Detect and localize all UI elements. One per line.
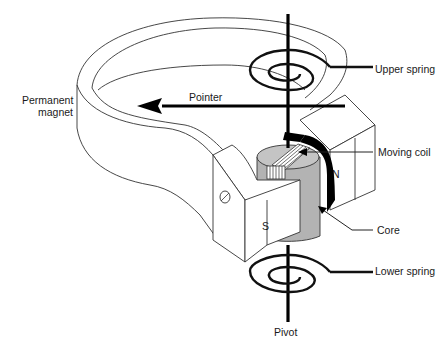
south-pole-label: S	[262, 220, 269, 232]
core-label: Core	[377, 224, 400, 236]
pointer	[137, 98, 345, 114]
lower-spring	[250, 255, 373, 292]
pointer-label: Pointer	[189, 91, 223, 103]
upper-spring-label: Upper spring	[375, 63, 435, 75]
moving-coil-meter-diagram: N S	[0, 0, 448, 353]
pivot-label: Pivot	[274, 326, 297, 338]
permanent-magnet-label-line1: Permanent	[22, 94, 73, 106]
permanent-magnet-label-line2: magnet	[38, 106, 73, 118]
pointer-arrowhead-icon	[137, 98, 162, 114]
lower-spring-label: Lower spring	[375, 265, 435, 277]
upper-spring	[250, 50, 373, 90]
moving-coil-label: Moving coil	[378, 146, 431, 158]
core-leader	[323, 210, 373, 230]
